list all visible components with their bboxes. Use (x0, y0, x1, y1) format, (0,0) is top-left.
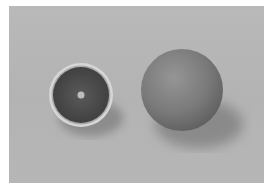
photo-canvas (9, 6, 264, 183)
half-orange (49, 63, 113, 127)
orange-photo (9, 6, 264, 183)
whole-orange (141, 49, 223, 131)
